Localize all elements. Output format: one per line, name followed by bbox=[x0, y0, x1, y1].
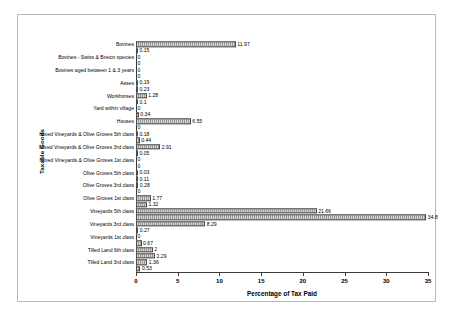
bar[interactable] bbox=[136, 42, 236, 47]
category-label: Vineyards 5th class bbox=[90, 208, 134, 214]
bar-value-label: 0.67 bbox=[143, 240, 153, 246]
category-label: Mixed Vineyards & Olive Groves 3rd class bbox=[39, 144, 134, 150]
bar-value-label: 0 bbox=[138, 157, 141, 163]
bar-and-value: 0 bbox=[136, 125, 140, 130]
category-label: Bovines bbox=[116, 41, 134, 47]
bar-and-value: 0 bbox=[136, 67, 140, 72]
category-label: Olive Groves 3rd class bbox=[83, 182, 134, 188]
bar[interactable] bbox=[136, 221, 205, 226]
bar-and-value: 0.11 bbox=[136, 176, 149, 181]
bar-and-value: 0 bbox=[136, 157, 140, 162]
bar[interactable] bbox=[136, 215, 426, 220]
bar[interactable] bbox=[136, 228, 138, 233]
bar-and-value: 0.1 bbox=[136, 99, 147, 104]
bar[interactable] bbox=[136, 240, 142, 245]
x-tick-label: 0 bbox=[124, 278, 148, 284]
bar[interactable] bbox=[136, 196, 151, 201]
bar-and-value: 0.23 bbox=[136, 86, 149, 91]
bar-and-value: 0.19 bbox=[136, 80, 149, 85]
bar[interactable] bbox=[136, 138, 140, 143]
bar-and-value: 0.67 bbox=[136, 240, 153, 245]
category-label: Houses bbox=[117, 118, 134, 124]
bar-value-label: 1.32 bbox=[149, 202, 159, 208]
x-tick-label: 10 bbox=[207, 278, 231, 284]
category-label: Workhorses bbox=[107, 93, 134, 99]
bar-value-label: 0 bbox=[138, 234, 141, 240]
bar-value-label: 0.1 bbox=[140, 99, 147, 105]
bar-value-label: 0.11 bbox=[140, 176, 150, 182]
x-tick-label: 30 bbox=[374, 278, 398, 284]
bar-value-label: 2 bbox=[154, 247, 157, 253]
bar-value-label: 2.29 bbox=[157, 253, 167, 259]
x-tick-mark bbox=[261, 272, 262, 276]
bar[interactable] bbox=[136, 183, 138, 188]
category-label: Mixed Vineyards & Olive Groves 5th class bbox=[39, 131, 134, 137]
bar-value-label: 1.77 bbox=[152, 195, 162, 201]
bar-and-value: 2 bbox=[136, 247, 157, 252]
bar-value-label: 0 bbox=[138, 67, 141, 73]
bar[interactable] bbox=[136, 48, 138, 53]
horizontal-bar-chart: Taxable Goods Bovines11.970.15Bovines - … bbox=[0, 0, 454, 318]
bar[interactable] bbox=[136, 202, 147, 207]
category-label: Olive Groves 1st class bbox=[83, 195, 134, 201]
bar[interactable] bbox=[136, 176, 138, 181]
bar[interactable] bbox=[136, 253, 155, 258]
bar[interactable] bbox=[136, 208, 317, 213]
bar-value-label: 0.18 bbox=[140, 131, 150, 137]
bar[interactable] bbox=[136, 247, 153, 252]
bar-and-value: 1.28 bbox=[136, 93, 158, 98]
x-tick-mark bbox=[386, 272, 387, 276]
bar-and-value: 0.34 bbox=[136, 112, 150, 117]
bar-and-value: 0 bbox=[136, 234, 140, 239]
bar-and-value: 1.36 bbox=[136, 260, 159, 265]
bar-and-value: 0.15 bbox=[136, 48, 149, 53]
category-label: Olive Groves 5th class bbox=[83, 170, 134, 176]
bar[interactable] bbox=[136, 266, 140, 271]
category-label: Tilled Land 6th class bbox=[88, 247, 134, 253]
bar-and-value: 0.05 bbox=[136, 151, 149, 156]
bar[interactable] bbox=[136, 112, 139, 117]
category-label: Bovines - Swiss & Breton species bbox=[58, 54, 134, 60]
x-tick-label: 20 bbox=[291, 278, 315, 284]
bar-and-value: 0.28 bbox=[136, 183, 150, 188]
bar[interactable] bbox=[136, 93, 147, 98]
category-label: Yard within village bbox=[93, 105, 134, 111]
bar-value-label: 0 bbox=[138, 125, 141, 131]
bar-value-label: 0 bbox=[138, 189, 141, 195]
bar[interactable] bbox=[136, 170, 138, 175]
bar-and-value: 1.77 bbox=[136, 196, 162, 201]
x-tick-label: 15 bbox=[249, 278, 273, 284]
x-tick-label: 5 bbox=[166, 278, 190, 284]
bar-and-value: 8.29 bbox=[136, 221, 217, 226]
bar-value-label: 0 bbox=[138, 60, 141, 66]
bar-and-value: 0 bbox=[136, 106, 140, 111]
bar-value-label: 1.36 bbox=[149, 259, 159, 265]
bar-value-label: 0 bbox=[138, 105, 141, 111]
bar-value-label: 8.29 bbox=[207, 221, 217, 227]
bar[interactable] bbox=[136, 80, 138, 85]
bar-and-value: 6.55 bbox=[136, 119, 202, 124]
bar[interactable] bbox=[136, 151, 138, 156]
bar[interactable] bbox=[136, 260, 147, 265]
x-tick-mark bbox=[303, 272, 304, 276]
bar-value-label: 34.8 bbox=[428, 214, 438, 220]
bar[interactable] bbox=[136, 99, 138, 104]
bar-and-value: 0.03 bbox=[136, 170, 149, 175]
bar-and-value: 0.27 bbox=[136, 228, 150, 233]
bar-value-label: 0.44 bbox=[141, 137, 151, 143]
bar[interactable] bbox=[136, 86, 138, 91]
bar-and-value: 34.8 bbox=[136, 215, 438, 220]
bar-value-label: 0 bbox=[138, 73, 141, 79]
bar-value-label: 0.27 bbox=[140, 227, 150, 233]
category-label: Vineyards 1st class bbox=[90, 234, 134, 240]
bar-and-value: 0 bbox=[136, 74, 140, 79]
bar[interactable] bbox=[136, 144, 160, 149]
bar-value-label: 11.97 bbox=[237, 41, 249, 47]
bar[interactable] bbox=[136, 119, 191, 124]
bar-value-label: 0 bbox=[138, 54, 141, 60]
bar-value-label: 21.66 bbox=[318, 208, 331, 214]
bar[interactable] bbox=[136, 131, 138, 136]
x-tick-label: 35 bbox=[416, 278, 440, 284]
category-label: Asses bbox=[120, 80, 134, 86]
x-tick-mark bbox=[178, 272, 179, 276]
